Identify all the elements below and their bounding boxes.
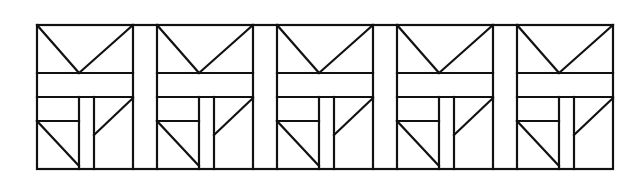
v-left-arm — [277, 25, 319, 73]
v-right-arm — [79, 25, 133, 73]
lower-right-diagonal — [454, 98, 493, 135]
tile-pattern-svg — [0, 0, 642, 186]
v-left-arm — [157, 25, 199, 73]
tile-panel-1 — [37, 25, 133, 169]
lower-left-diagonal — [37, 121, 79, 166]
v-left-arm — [517, 25, 559, 73]
lower-right-diagonal — [214, 98, 253, 135]
lower-right-diagonal — [94, 98, 133, 135]
tile-panel-5 — [517, 25, 613, 169]
tile-panel-4 — [397, 25, 493, 169]
tile-panel-3 — [277, 25, 373, 169]
lower-right-diagonal — [574, 98, 613, 135]
v-right-arm — [319, 25, 373, 73]
v-right-arm — [439, 25, 493, 73]
tile-pattern-figure — [0, 0, 642, 186]
v-left-arm — [397, 25, 439, 73]
lower-left-diagonal — [397, 121, 439, 166]
lower-left-diagonal — [517, 121, 559, 166]
tile-panel-2 — [157, 25, 253, 169]
lower-left-diagonal — [277, 121, 319, 166]
v-right-arm — [199, 25, 253, 73]
lower-right-diagonal — [334, 98, 373, 135]
lower-left-diagonal — [157, 121, 199, 166]
v-right-arm — [559, 25, 613, 73]
v-left-arm — [37, 25, 79, 73]
